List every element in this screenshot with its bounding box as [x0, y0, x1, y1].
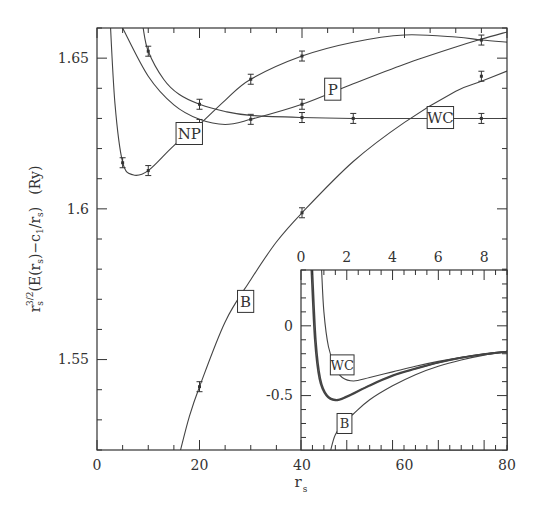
svg-text:B: B: [340, 416, 350, 431]
error-bar-point: [248, 74, 254, 84]
x-tick-label: 80: [498, 457, 516, 473]
label-wc: WC: [427, 107, 454, 129]
error-bar-point: [299, 51, 305, 61]
svg-text:WC: WC: [427, 109, 454, 127]
x-tick-label: 6: [434, 249, 443, 265]
svg-text:rs3/2(E(rs)−c1/rs)(Ry): rs3/2(E(rs)−c1/rs)(Ry): [25, 166, 45, 313]
svg-text:WC: WC: [331, 358, 354, 373]
label-wc: WC: [330, 355, 354, 375]
label-b: B: [337, 413, 352, 433]
x-tick-label: 60: [396, 457, 414, 473]
svg-text:P: P: [328, 81, 338, 99]
svg-text:r: r: [294, 473, 302, 491]
svg-text:NP: NP: [178, 125, 201, 143]
label-p: P: [325, 78, 341, 100]
label-np: NP: [176, 123, 202, 145]
x-tick-label: 8: [480, 249, 489, 265]
x-axis-label: r s: [294, 473, 307, 494]
y-tick-label: 1.55: [58, 351, 89, 367]
label-b: B: [238, 290, 254, 312]
error-bar-point: [478, 71, 484, 81]
error-bar-point: [145, 166, 151, 176]
y-axis-label: rs3/2(E(rs)−c1/rs)(Ry): [25, 166, 45, 313]
error-bar-point: [120, 158, 126, 168]
x-tick-label: 4: [388, 249, 397, 265]
y-tick-label: 0: [284, 318, 293, 334]
error-bar-point: [299, 208, 305, 218]
error-bar-point: [197, 382, 203, 392]
x-tick-label: 20: [191, 457, 209, 473]
x-tick-label: 0: [297, 249, 306, 265]
error-bar-point: [197, 99, 203, 109]
y-tick-label: -0.5: [266, 387, 293, 403]
x-tick-label: 0: [93, 457, 102, 473]
curve-np: [110, 13, 507, 175]
svg-text:B: B: [240, 293, 251, 311]
y-tick-label: 1.65: [58, 50, 89, 66]
error-bar-point: [145, 46, 151, 56]
error-bar-point: [299, 99, 305, 109]
inset-plot: 024680-0.5WCB: [266, 249, 507, 450]
x-tick-label: 40: [293, 457, 311, 473]
energy-vs-rs-chart: 0204060801.551.61.65NPPWCB 024680-0.5WCB…: [0, 0, 540, 511]
y-tick-label: 1.6: [67, 201, 89, 217]
x-tick-label: 2: [342, 249, 351, 265]
curve-wc: [143, 28, 507, 118]
svg-text:s: s: [303, 484, 308, 494]
